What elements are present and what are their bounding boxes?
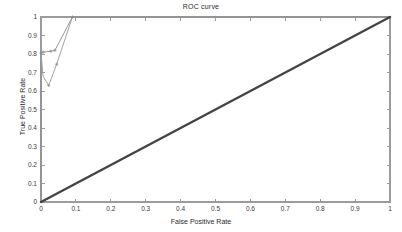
data-point-marker [71,15,74,18]
data-series-group [41,17,390,202]
x-axis-label: False Positive Rate [0,218,402,225]
x-tick-label: 0.3 [141,205,150,212]
y-tick-label: 0.8 [28,50,37,57]
data-point-marker [49,50,52,53]
y-tick-label: 0.2 [28,161,37,168]
x-tick-label: 0.1 [71,205,80,212]
data-markers-group [39,15,74,87]
data-point-marker [55,63,58,66]
y-tick-label: 0.3 [28,143,37,150]
x-tick-label: 0.6 [246,205,255,212]
roc-curve-figure: ROC curve 00.10.20.30.40.50.60.70.80.910… [0,0,402,232]
y-tick-label: 0.1 [28,180,37,187]
x-tick-label: 0.4 [176,205,185,212]
x-tick-label: 0.2 [106,205,115,212]
x-tick-label: 0 [39,205,43,212]
x-tick-label: 0.5 [211,205,220,212]
y-tick-label: 0.6 [28,87,37,94]
x-tick-label: 0.8 [316,205,325,212]
x-tick-label: 1 [388,205,392,212]
series-chance-diagonal [41,17,390,202]
y-axis-label: True Positive Rate [19,47,26,167]
y-tick-label: 0.7 [28,69,37,76]
series-roc-curve-b [41,17,72,85]
x-tick-label: 0.9 [351,205,360,212]
y-tick-label: 0.4 [28,124,37,131]
plot-area: 00.10.20.30.40.50.60.70.80.9100.10.20.30… [0,0,402,232]
y-tick-label: 0.5 [28,106,37,113]
y-tick-label: 1 [33,13,37,20]
y-tick-label: 0 [33,198,37,205]
data-point-marker [53,49,56,52]
y-tick-label: 0.9 [28,32,37,39]
x-tick-label: 0.7 [281,205,290,212]
